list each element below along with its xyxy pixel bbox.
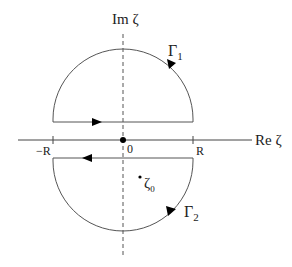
arrow-up-arc-icon (167, 59, 176, 69)
zeta0-point (138, 175, 141, 178)
tick-label-pos-r: R (196, 144, 204, 158)
tick-label-origin: 0 (127, 142, 133, 156)
imaginary-axis-label: Im ζ (112, 11, 139, 27)
arrow-left-icon (82, 154, 92, 162)
real-axis-label: Re ζ (255, 132, 282, 148)
gamma1-sub: 1 (177, 50, 183, 62)
contour-diagram: Im ζ Re ζ −R 0 R Γ1 Γ2 ζ0 (0, 0, 292, 267)
gamma2-label: Γ2 (184, 203, 199, 223)
gamma1-label: Γ1 (168, 42, 183, 62)
gamma2-sub: 2 (193, 211, 199, 223)
zeta0-label: ζ0 (144, 175, 155, 194)
arrow-right-icon (92, 118, 102, 126)
tick-label-neg-r: −R (36, 144, 51, 158)
gamma1-main: Γ (168, 42, 177, 59)
origin-point (120, 137, 126, 143)
gamma2-main: Γ (184, 203, 193, 220)
zeta0-sub: 0 (150, 184, 155, 194)
